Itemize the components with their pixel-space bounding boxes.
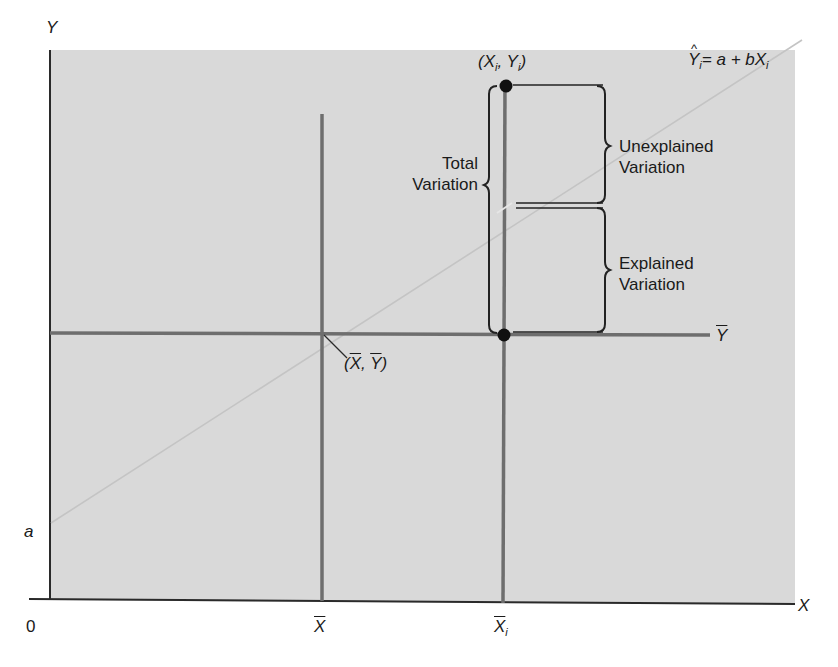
unexplained-variation-line1: Unexplained: [619, 136, 714, 157]
ybar-label: Y: [716, 326, 727, 346]
explained-variation-line2: Variation: [619, 274, 694, 295]
paren-close: ): [520, 52, 526, 71]
plot-panel: [50, 50, 795, 605]
x-axis-label: X: [798, 596, 809, 616]
total-variation-line2: Variation: [400, 174, 478, 195]
xi-tick-label: Xi: [494, 617, 508, 642]
regression-variation-diagram: [0, 0, 838, 667]
xi-line: [503, 85, 505, 603]
point-y: Y: [507, 52, 518, 71]
mean-point-label: (X, Y): [344, 354, 387, 374]
mean-y: Y: [370, 354, 381, 373]
equation-rhs-sub: i: [766, 59, 768, 71]
xi-tick-label-sub: i: [505, 626, 507, 638]
data-point-label: (Xi, Yi): [478, 52, 526, 77]
equation-rhs: = a + bX: [702, 50, 766, 69]
intercept-label: a: [24, 522, 33, 542]
yhat: ^Y: [688, 50, 699, 70]
separator: ,: [361, 354, 370, 373]
origin-label: 0: [26, 617, 35, 637]
point-x: X: [484, 52, 495, 71]
paren-close: ): [382, 354, 388, 373]
total-variation-line1: Total: [400, 153, 478, 174]
total-variation-label: Total Variation: [400, 153, 478, 195]
unexplained-variation-label: Unexplained Variation: [619, 136, 714, 178]
explained-variation-label: Explained Variation: [619, 253, 694, 295]
y-axis-label: Y: [46, 18, 57, 38]
mean-x: X: [350, 354, 361, 373]
hat-symbol: ^: [691, 39, 697, 59]
xbar-tick-label: X: [314, 617, 325, 637]
data-point-xi-yi: [500, 80, 513, 93]
ybar-line: [50, 333, 710, 335]
unexplained-variation-line2: Variation: [619, 157, 714, 178]
xi-tick-label-main: X: [494, 617, 505, 636]
explained-variation-line1: Explained: [619, 253, 694, 274]
separator: ,: [497, 52, 506, 71]
regression-equation: ^Yi= a + bXi: [688, 50, 769, 75]
data-point-xi-ybar: [498, 329, 511, 342]
